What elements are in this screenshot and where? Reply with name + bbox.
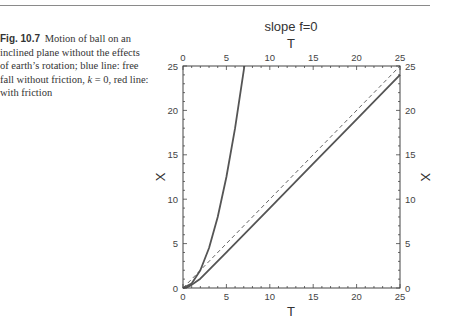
y-tick-label: 15 <box>167 149 178 160</box>
y-right-tick-label: 20 <box>405 105 416 116</box>
series-line-2 <box>183 66 400 288</box>
x-top-tick-label: 25 <box>395 52 406 63</box>
y-right-tick-label: 15 <box>405 149 416 160</box>
x-tick-label: 5 <box>224 291 229 302</box>
y-axis-right-label: X <box>418 173 433 182</box>
series-line-1 <box>183 75 400 288</box>
chart: slope f=0 T T X X 0055101015152020252500… <box>0 0 453 332</box>
x-tick-label: 15 <box>308 291 319 302</box>
x-top-tick-label: 5 <box>224 52 229 63</box>
x-top-tick-label: 15 <box>308 52 319 63</box>
y-tick-label: 20 <box>167 105 178 116</box>
x-tick-label: 0 <box>180 291 185 302</box>
y-right-tick-label: 10 <box>405 194 416 205</box>
x-tick-label: 25 <box>395 291 406 302</box>
x-tick-label: 20 <box>351 291 362 302</box>
y-tick-label: 5 <box>173 238 178 249</box>
x-top-tick-label: 20 <box>351 52 362 63</box>
y-axis-label: X <box>153 172 168 181</box>
x-axis-top-label: T <box>287 36 295 51</box>
x-axis-label: T <box>287 304 295 319</box>
x-tick-label: 10 <box>265 291 276 302</box>
y-right-tick-label: 25 <box>405 61 416 72</box>
x-top-tick-label: 0 <box>180 52 185 63</box>
y-tick-label: 0 <box>173 283 178 294</box>
series-line-0 <box>183 66 244 288</box>
y-right-tick-label: 5 <box>405 238 410 249</box>
chart-title: slope f=0 <box>264 19 317 34</box>
x-top-tick-label: 10 <box>265 52 276 63</box>
y-tick-label: 10 <box>167 194 178 205</box>
y-tick-label: 25 <box>167 61 178 72</box>
y-right-tick-label: 0 <box>405 283 410 294</box>
